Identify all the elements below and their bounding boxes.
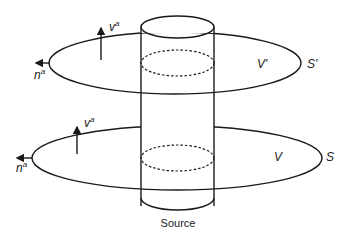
source-label: Source <box>161 217 196 229</box>
lower-dashed-cross-section <box>141 145 214 171</box>
lower-volume-label: V <box>274 150 283 164</box>
cylinder-bottom-arc <box>141 198 214 210</box>
upper-surface-label: S' <box>307 57 318 71</box>
upper-dashed-cross-section <box>141 50 214 76</box>
upper-normal-vector: na <box>34 63 50 82</box>
lower-normal-label: na <box>16 160 28 175</box>
source-cylinder <box>141 16 214 210</box>
upper-velocity-vector: va <box>101 19 120 60</box>
upper-normal-label: na <box>34 67 46 82</box>
source-tube-diagram: na va V' S' na va V S Source <box>0 0 347 238</box>
lower-velocity-label: va <box>84 115 95 130</box>
upper-volume-label: V' <box>257 57 268 71</box>
lower-surface-label: S <box>326 150 334 164</box>
lower-normal-vector: na <box>16 158 32 175</box>
upper-velocity-label: va <box>109 19 120 34</box>
